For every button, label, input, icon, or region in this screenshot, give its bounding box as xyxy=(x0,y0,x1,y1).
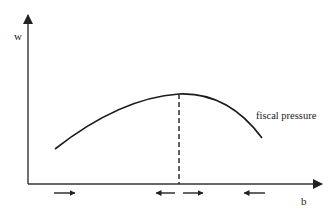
fiscal-pressure-curve xyxy=(55,94,262,149)
diagram-canvas: w b fiscal pressure xyxy=(0,0,336,212)
curve-label: fiscal pressure xyxy=(256,110,317,121)
x-axis-label: b xyxy=(301,195,307,207)
y-axis-label: w xyxy=(14,30,22,42)
